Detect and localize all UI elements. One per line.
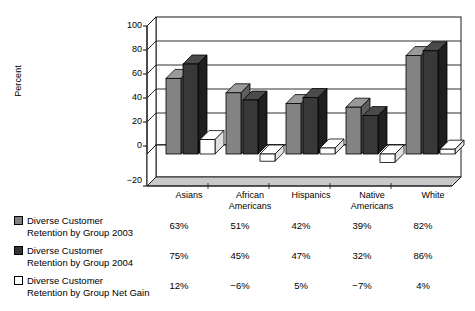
table-cell-2003-native-americans: 39% bbox=[339, 220, 385, 231]
table-cell-2004-asians: 75% bbox=[156, 250, 202, 261]
x-category-african-americans-line2: Americans bbox=[213, 201, 287, 212]
bar-african-americans-2004 bbox=[243, 91, 267, 154]
table-cell-2004-white: 86% bbox=[400, 250, 446, 261]
legend-item-2003: Diverse Customer Retention by Group 2003 bbox=[14, 215, 133, 238]
legend-label-2003-line2: Retention by Group 2003 bbox=[27, 227, 133, 239]
table-cell-2004-african-americans: 45% bbox=[217, 250, 263, 261]
table-cell-net-gain-native-americans: −7% bbox=[339, 280, 385, 291]
x-category-white-line1: White bbox=[396, 190, 470, 201]
legend-label-2004-line1: Diverse Customer bbox=[27, 245, 133, 257]
legend-label-2004-line2: Retention by Group 2004 bbox=[27, 257, 133, 269]
table-cell-net-gain-african-americans: −6% bbox=[217, 280, 263, 291]
x-category-native-americans-line2: Americans bbox=[335, 201, 409, 212]
legend-item-net-gain: Diverse Customer Retention by Group Net … bbox=[14, 275, 150, 298]
table-cell-2004-hispanics: 47% bbox=[278, 250, 324, 261]
table-cell-2003-white: 82% bbox=[400, 220, 446, 231]
table-cell-2004-native-americans: 32% bbox=[339, 250, 385, 261]
bar-chart: Percent 100 80 60 40 20 0 −20 bbox=[0, 0, 475, 311]
legend-item-2004: Diverse Customer Retention by Group 2004 bbox=[14, 245, 133, 268]
bar-native-americans-2004 bbox=[363, 107, 387, 154]
table-cell-net-gain-hispanics: 5% bbox=[278, 280, 324, 291]
legend-swatch-2003 bbox=[14, 216, 23, 225]
legend-swatch-2004 bbox=[14, 246, 23, 255]
legend-swatch-net-gain bbox=[14, 276, 23, 285]
legend-label-net-gain-line1: Diverse Customer bbox=[27, 275, 150, 287]
table-cell-net-gain-white: 4% bbox=[400, 280, 446, 291]
legend-label-net-gain-line2: Retention by Group Net Gain bbox=[27, 287, 150, 299]
legend-label-2003-line1: Diverse Customer bbox=[27, 215, 133, 227]
table-cell-net-gain-asians: 12% bbox=[156, 280, 202, 291]
table-cell-2003-african-americans: 51% bbox=[217, 220, 263, 231]
bar-white-2004 bbox=[423, 42, 447, 154]
x-category-white: White bbox=[396, 190, 470, 201]
table-cell-2003-asians: 63% bbox=[156, 220, 202, 231]
table-cell-2003-hispanics: 42% bbox=[278, 220, 324, 231]
